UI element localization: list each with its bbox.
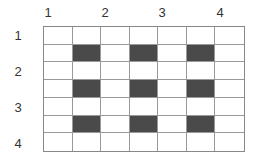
grid-cell (101, 45, 130, 63)
grid-cell (158, 45, 187, 63)
grid-cell (130, 27, 159, 45)
grid-cell (130, 133, 159, 151)
grid-cell (130, 98, 159, 116)
grid-cell (158, 62, 187, 80)
grid-cell-filled (187, 80, 216, 98)
grid-cell (215, 133, 244, 151)
grid-cell (44, 133, 73, 151)
grid-cell (215, 62, 244, 80)
column-label: 3 (152, 5, 172, 20)
grid-cell (101, 98, 130, 116)
grid-cell (101, 133, 130, 151)
grid-cell (158, 133, 187, 151)
grid-cell (215, 45, 244, 63)
grid-diagram (43, 26, 245, 152)
grid-cell (158, 27, 187, 45)
grid-cell (73, 98, 102, 116)
grid-cell (44, 62, 73, 80)
grid-cell (158, 116, 187, 134)
grid-cell (158, 98, 187, 116)
grid-cell-filled (73, 80, 102, 98)
grid-cell (158, 80, 187, 98)
grid-cell (101, 27, 130, 45)
grid-cell (44, 98, 73, 116)
grid-cell-filled (130, 116, 159, 134)
column-label: 4 (210, 5, 230, 20)
grid-cell-filled (130, 80, 159, 98)
grid-cell (73, 133, 102, 151)
grid-cell (44, 116, 73, 134)
column-label: 2 (95, 5, 115, 20)
grid-cell (73, 27, 102, 45)
row-label: 2 (10, 64, 26, 79)
grid-cell-filled (130, 45, 159, 63)
grid-cell-filled (73, 116, 102, 134)
row-label: 3 (10, 100, 26, 115)
grid-cell (101, 62, 130, 80)
grid-cell-filled (187, 45, 216, 63)
grid-cell (44, 27, 73, 45)
column-label: 1 (38, 5, 58, 20)
row-label: 1 (10, 28, 26, 43)
row-label: 4 (10, 136, 26, 151)
grid-cell (101, 116, 130, 134)
grid-cell (130, 62, 159, 80)
grid-cell (215, 116, 244, 134)
grid-cell (101, 80, 130, 98)
grid-cell (187, 133, 216, 151)
grid-cell (215, 27, 244, 45)
grid-cell (187, 62, 216, 80)
grid-cell (215, 98, 244, 116)
grid-cell-filled (187, 116, 216, 134)
grid-cell (44, 45, 73, 63)
grid-cell (187, 27, 216, 45)
grid-cell-filled (73, 45, 102, 63)
grid-cell (187, 98, 216, 116)
grid-cell (44, 80, 73, 98)
grid-cell (73, 62, 102, 80)
grid-cell (215, 80, 244, 98)
